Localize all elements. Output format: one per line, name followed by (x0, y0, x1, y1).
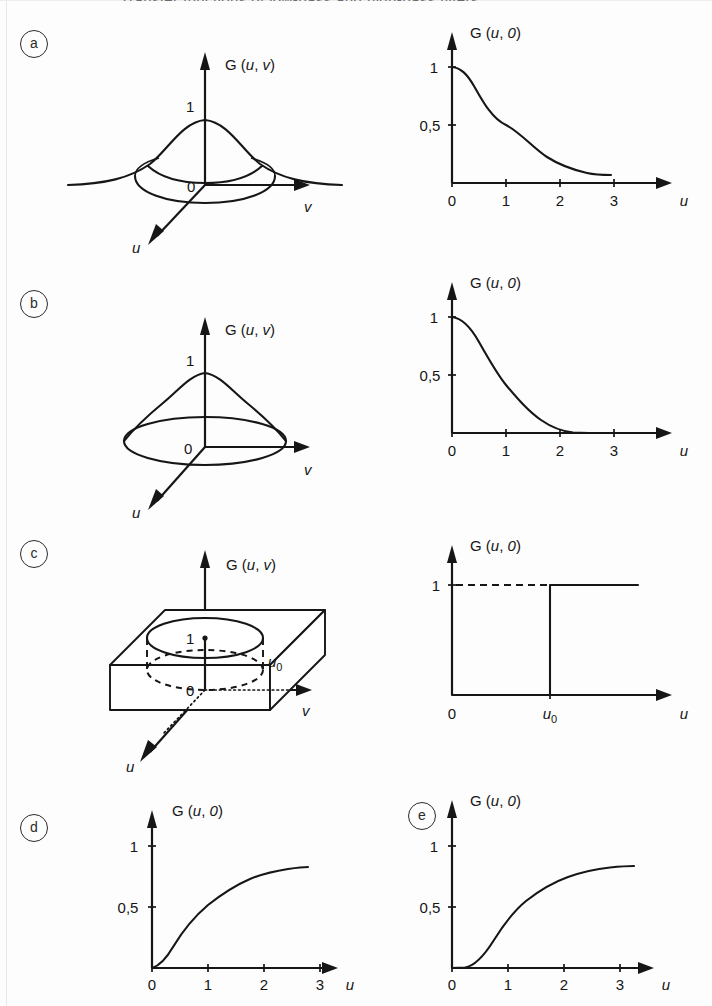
profile-a-xtick-0: 0 (448, 192, 456, 209)
profile-d-ylabel: G (u, 0) (172, 802, 223, 819)
profile-b-ylabel: G (u, 0) (470, 274, 521, 291)
surface-b-function-label: G (u, v) (225, 321, 275, 338)
profile-b-xlabel: u (680, 442, 689, 459)
surface-a-v-label: v (304, 198, 313, 215)
surface-a-function-label: G (u, v) (225, 56, 275, 73)
profile-b-xtick-0: 0 (448, 442, 456, 459)
panel-a: a G (u, v) 1 0 (0, 0, 712, 250)
profile-b-ytick-1: 1 (430, 309, 438, 326)
profile-plot-d: G (u, 0) 1 0,5 0 1 2 3 u (110, 790, 390, 990)
profile-d-xtick-0: 0 (148, 976, 156, 993)
profile-a-ylabel: G (u, 0) (470, 24, 521, 41)
profile-a-ytick-half: 0,5 (420, 117, 441, 134)
profile-b-xtick-3: 3 (610, 442, 618, 459)
profile-e-xtick-2: 2 (560, 976, 568, 993)
profile-b-ytick-half: 0,5 (420, 367, 441, 384)
profile-e-ytick-1: 1 (430, 838, 438, 855)
profile-plot-c: G (u, 0) 1 0 u0 u (420, 525, 700, 725)
profile-c-xtick-cutoff: u0 (543, 705, 557, 725)
surface-b-v-label: v (304, 461, 313, 478)
profile-d-ytick-1: 1 (130, 838, 138, 855)
profile-e-xlabel: u (662, 976, 671, 993)
surface-c-peak-label: 1 (186, 630, 194, 647)
profile-plot-a: G (u, 0) 1 0,5 0 1 2 3 u (420, 18, 700, 208)
surface-plot-a: G (u, v) 1 0 v u (60, 40, 350, 250)
profile-c-ylabel: G (u, 0) (470, 537, 521, 554)
profile-a-xtick-3: 3 (610, 192, 618, 209)
surface-c-function-label: G (u, v) (226, 556, 276, 573)
panel-tag-b: b (20, 290, 48, 318)
profile-a-ytick-1: 1 (430, 59, 438, 76)
profile-e-ytick-half: 0,5 (420, 899, 441, 916)
profile-e-xtick-0: 0 (448, 976, 456, 993)
profile-a-xtick-1: 1 (502, 192, 510, 209)
figure-root: Transfer functions of low-pass and high-… (0, 0, 712, 1006)
panel-tag-d: d (20, 814, 48, 842)
surface-c-v-label: v (302, 702, 311, 719)
profile-e-xtick-3: 3 (616, 976, 624, 993)
surface-a-peak-label: 1 (186, 98, 194, 115)
panel-de: d e G (u, 0) 1 0,5 0 1 2 3 u (0, 770, 712, 1006)
profile-e-ylabel: G (u, 0) (470, 792, 521, 809)
panel-b: b G (u, v) 1 0 v u (0, 250, 712, 505)
profile-d-xtick-3: 3 (316, 976, 324, 993)
profile-d-xtick-1: 1 (204, 976, 212, 993)
profile-c-xlabel: u (680, 705, 689, 722)
surface-c-origin-label: 0 (186, 682, 194, 699)
profile-plot-b: G (u, 0) 1 0,5 0 1 2 3 u (420, 268, 700, 458)
profile-d-xtick-2: 2 (260, 976, 268, 993)
surface-plot-c: G (u, v) 1 0 u0 v u (40, 530, 370, 780)
profile-d-xlabel: u (346, 976, 355, 993)
surface-b-origin-label: 0 (184, 440, 192, 457)
panel-tag-a: a (20, 30, 48, 58)
surface-b-peak-label: 1 (186, 352, 194, 369)
profile-d-ytick-half: 0,5 (118, 899, 139, 916)
profile-b-xtick-2: 2 (556, 442, 564, 459)
profile-b-xtick-1: 1 (502, 442, 510, 459)
profile-c-ytick-1: 1 (432, 577, 440, 594)
profile-c-xtick-0: 0 (448, 705, 456, 722)
profile-a-xtick-2: 2 (556, 192, 564, 209)
profile-e-xtick-1: 1 (504, 976, 512, 993)
profile-a-xlabel: u (680, 192, 689, 209)
surface-a-origin-label: 0 (187, 178, 195, 195)
panel-c: c (0, 505, 712, 770)
surface-plot-b: G (u, v) 1 0 v u (60, 305, 350, 515)
profile-plot-e: G (u, 0) 1 0,5 0 1 2 3 u (420, 790, 700, 990)
